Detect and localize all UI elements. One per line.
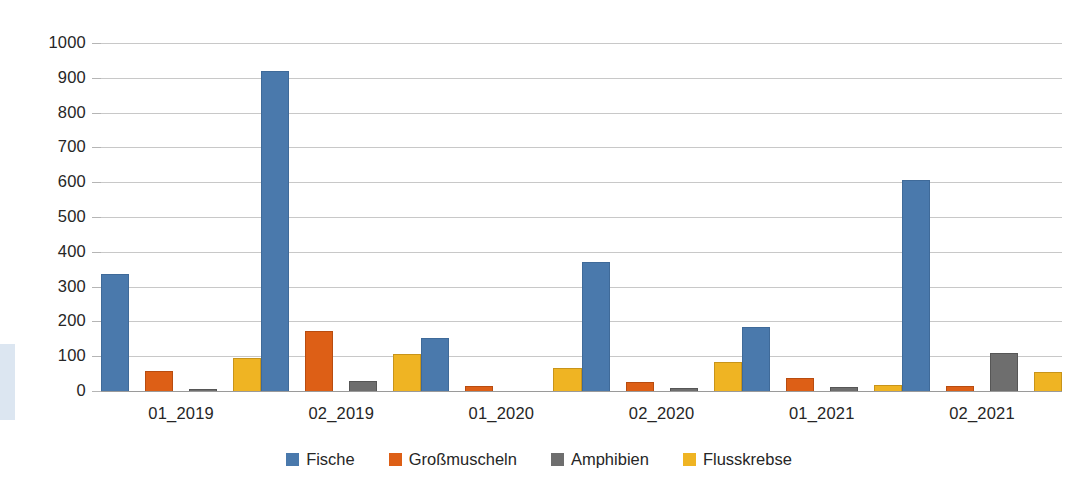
y-axis-tick-label: 1000 [0,34,86,50]
y-axis-tick-label: 200 [0,312,86,328]
bar-grossmuscheln-01_2021[interactable] [786,378,814,391]
y-axis-tick-mark [92,391,101,392]
bar-flusskrebse-01_2019[interactable] [233,358,261,391]
legend-item-label: Großmuscheln [409,450,517,469]
y-axis-tick-mark [92,43,101,44]
bar-group-bars [742,43,902,391]
y-axis-tick-mark [92,182,101,183]
bar-amphibien-02_2021[interactable] [990,353,1018,391]
bar-flusskrebse-02_2019[interactable] [393,354,421,391]
y-axis-tick-label: 700 [0,138,86,154]
chart-legend: FischeGroßmuschelnAmphibienFlusskrebse [0,450,1078,469]
bar-group-bars [421,43,581,391]
bar-grossmuscheln-02_2019[interactable] [305,331,333,391]
y-axis-tick-mark [92,321,101,322]
bar-amphibien-01_2021[interactable] [830,387,858,391]
bar-flusskrebse-02_2020[interactable] [714,362,742,391]
bar-fische-02_2021[interactable] [902,180,930,391]
legend-item-flusskrebse[interactable]: Flusskrebse [683,450,792,469]
x-axis-tick-label: 02_2021 [902,404,1062,423]
bar-amphibien-01_2019[interactable] [189,389,217,391]
bar-groups [101,43,1062,391]
legend-item-grossmuscheln[interactable]: Großmuscheln [389,450,517,469]
bar-amphibien-02_2019[interactable] [349,381,377,391]
y-axis-tick-label: 500 [0,208,86,224]
legend-swatch-amphibien-icon [551,453,564,466]
bar-grossmuscheln-01_2020[interactable] [465,386,493,391]
bar-flusskrebse-02_2021[interactable] [1034,372,1062,391]
legend-item-label: Flusskrebse [703,450,792,469]
legend-item-fische[interactable]: Fische [286,450,355,469]
bar-fische-02_2020[interactable] [582,262,610,391]
legend-swatch-fische-icon [286,453,299,466]
bar-group-bars [902,43,1062,391]
x-axis-tick-label: 02_2019 [261,404,421,423]
bar-group [582,43,742,391]
x-axis-tick-label: 01_2020 [421,404,581,423]
y-axis-tick-mark [92,217,101,218]
bar-fische-01_2020[interactable] [421,338,449,391]
legend-item-label: Fische [306,450,355,469]
bar-group-bars [101,43,261,391]
legend-swatch-flusskrebse-icon [683,453,696,466]
y-axis-tick-mark [92,113,101,114]
y-axis-tick-mark [92,252,101,253]
y-axis-tick-mark [92,287,101,288]
bar-grossmuscheln-02_2021[interactable] [946,386,974,391]
x-axis-tick-label: 01_2019 [101,404,261,423]
y-axis-tick-label: 600 [0,173,86,189]
bar-group [742,43,902,391]
axis-line-zero [101,391,1062,392]
scan-artifact [0,344,15,420]
bar-group [421,43,581,391]
bar-group-bars [261,43,421,391]
bar-flusskrebse-01_2021[interactable] [874,385,902,391]
bar-grossmuscheln-02_2020[interactable] [626,382,654,391]
legend-swatch-grossmuscheln-icon [389,453,402,466]
y-axis-tick-mark [92,78,101,79]
bar-chart: 01002003004005006007008009001000 01_2019… [0,0,1078,497]
bar-group [101,43,261,391]
y-axis-tick-label: 300 [0,278,86,294]
bar-amphibien-02_2020[interactable] [670,388,698,391]
bar-flusskrebse-01_2020[interactable] [553,368,581,391]
y-axis-tick-label: 900 [0,69,86,85]
y-axis-tick-label: 400 [0,243,86,259]
y-axis-tick-label: 800 [0,104,86,120]
bar-group [261,43,421,391]
y-axis-tick-mark [92,147,101,148]
bar-group-bars [582,43,742,391]
x-axis-tick-label: 02_2020 [582,404,742,423]
bar-fische-02_2019[interactable] [261,71,289,391]
y-axis-tick-mark [92,356,101,357]
bar-group [902,43,1062,391]
legend-item-amphibien[interactable]: Amphibien [551,450,649,469]
bar-grossmuscheln-01_2019[interactable] [145,371,173,391]
x-axis: 01_201902_201901_202002_202001_202102_20… [101,404,1062,423]
bar-fische-01_2019[interactable] [101,274,129,391]
legend-item-label: Amphibien [571,450,649,469]
x-axis-tick-label: 01_2021 [742,404,902,423]
bar-fische-01_2021[interactable] [742,327,770,391]
